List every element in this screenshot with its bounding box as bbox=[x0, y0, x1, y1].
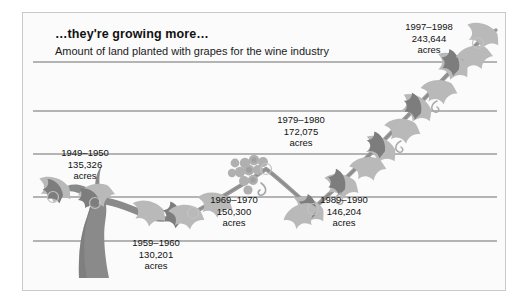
data-label-value: 243,644 bbox=[381, 33, 477, 45]
data-label-period: 1997–1998 bbox=[381, 21, 477, 33]
data-label-unit: acres bbox=[37, 170, 133, 182]
data-label-unit: acres bbox=[186, 217, 282, 229]
data-label-period: 1979–1980 bbox=[253, 114, 349, 126]
data-label-unit: acres bbox=[108, 260, 204, 272]
data-label-unit: acres bbox=[253, 137, 349, 149]
data-label-unit: acres bbox=[381, 44, 477, 56]
data-label-value: 150,300 bbox=[186, 206, 282, 218]
infographic-screen: …they're growing more… Amount of land pl… bbox=[0, 0, 530, 307]
data-label-period: 1959–1960 bbox=[108, 237, 204, 249]
data-label-value: 130,201 bbox=[108, 249, 204, 261]
data-label-1959-1960: 1959–1960 130,201 acres bbox=[108, 237, 204, 272]
data-label-1979-1980: 1979–1980 172,075 acres bbox=[253, 114, 349, 149]
data-label-period: 1949–1950 bbox=[37, 147, 133, 159]
chart-card: …they're growing more… Amount of land pl… bbox=[22, 12, 506, 291]
data-label-value: 135,326 bbox=[37, 159, 133, 171]
page-subtitle: Amount of land planted with grapes for t… bbox=[55, 45, 329, 57]
data-label-value: 146,204 bbox=[296, 206, 392, 218]
data-label-unit: acres bbox=[296, 217, 392, 229]
data-label-period: 1969–1970 bbox=[186, 194, 282, 206]
data-label-1949-1950: 1949–1950 135,326 acres bbox=[37, 147, 133, 182]
data-label-value: 172,075 bbox=[253, 126, 349, 138]
page-title: …they're growing more… bbox=[55, 27, 209, 41]
data-label-1969-1970: 1969–1970 150,300 acres bbox=[186, 194, 282, 229]
data-label-1997-1998: 1997–1998 243,644 acres bbox=[381, 21, 477, 56]
data-label-1989-1990: 1989–1990 146,204 acres bbox=[296, 194, 392, 229]
data-label-period: 1989–1990 bbox=[296, 194, 392, 206]
